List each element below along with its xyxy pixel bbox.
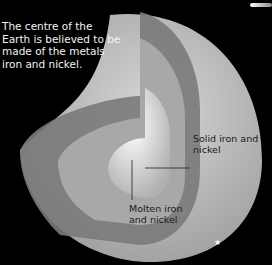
solid-core-label: Solid iron and nickel <box>193 133 263 155</box>
intro-caption: The centre of the Earth is believed to b… <box>2 20 122 70</box>
star-icon: ★ <box>214 238 221 247</box>
molten-core-label: Molten iron and nickel <box>129 203 199 225</box>
